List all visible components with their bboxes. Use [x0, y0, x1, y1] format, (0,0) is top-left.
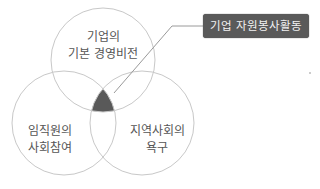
circle-right-label-line2: 욕구: [122, 140, 192, 157]
circle-left-label-line1: 임직원의: [22, 123, 78, 140]
circle-right-label: 지역사회의 욕구: [122, 123, 192, 157]
circle-left-label: 임직원의 사회참여: [22, 123, 78, 157]
circle-right-label-line1: 지역사회의: [122, 123, 192, 140]
circle-top-label-line1: 기업의: [58, 29, 148, 46]
intersection-callout: 기업 자원봉사활동: [203, 14, 309, 38]
circle-left-label-line2: 사회참여: [22, 140, 78, 157]
circle-top-label-line2: 기본 경영비전: [58, 46, 148, 63]
stray-dot: [309, 72, 311, 74]
circle-top-label: 기업의 기본 경영비전: [58, 29, 148, 63]
